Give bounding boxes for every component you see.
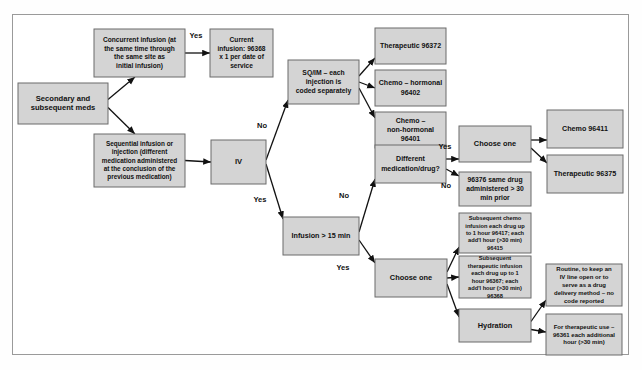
flow-node-therapeutic_96375: Therapeutic 96375 <box>547 155 623 193</box>
flowchart-canvas: Secondary andsubsequent medsConcurrent i… <box>0 0 642 370</box>
flow-edge-sqim-chemo-horm <box>359 82 375 88</box>
flow-node-iv: IV <box>211 140 266 184</box>
flow-edge-choosebot-subtherap <box>447 277 459 278</box>
flow-edge-start-concurrent <box>108 77 135 100</box>
flow-node-choose_one_bot: Choose one <box>375 259 447 297</box>
flow-node-infusion_15: Infusion > 15 min <box>283 217 359 255</box>
flow-edge-hydration-therap96361 <box>531 330 546 333</box>
flow-node-same_drug_96376: 96376 same drugadministered > 30min prio… <box>459 172 531 206</box>
flow-edge-sqim-therapeutic <box>359 58 375 76</box>
flow-edge-choosebot-subchemo <box>447 247 459 272</box>
flow-edge-iv-sqim <box>266 100 288 160</box>
flow-node-subseq_therap: Subsequenttherapeutic infusioneach drug … <box>459 255 531 298</box>
flow-node-sequential: Sequential infusion orinjection (differe… <box>94 134 185 187</box>
flow-node-chemo_96401: Chemo –non-hormonal96401 <box>375 112 446 148</box>
edge-label-iv-no: No <box>257 121 267 130</box>
flow-edge-choosebot-hydration <box>447 284 459 317</box>
flow-node-therap_96361: For therapeutic use –96361 each addition… <box>546 314 622 355</box>
flow-edge-iv-infusion <box>266 164 283 219</box>
node-label: Chemo 96411 <box>562 124 608 133</box>
flow-edge-infusion-choose <box>359 240 375 263</box>
node-label: Choose one <box>390 273 432 282</box>
flow-node-chemo_96402: Chemo – hormonal96402 <box>375 70 446 106</box>
flow-node-different_med: Differentmedication/drug? <box>375 145 446 183</box>
flow-node-therapeutic_96372: Therapeutic 96372 <box>375 28 446 64</box>
flow-node-current_infusion: Currentinfusion: 96368x 1 per date ofser… <box>210 29 273 77</box>
node-label: IV <box>235 157 243 166</box>
edge-label-different-yes: Yes <box>439 142 452 151</box>
node-label: Therapeutic 96372 <box>380 42 441 50</box>
node-label: Sequential infusion orinjection (differe… <box>102 140 177 181</box>
edge-label-different-no: No <box>441 181 451 190</box>
flow-node-subseq_chemo: Subsequent chemoinfusion each drug upto … <box>459 213 531 253</box>
flow-node-routine_iv: Routine, to keep anIV line open or toser… <box>546 264 622 306</box>
node-label: Hydration <box>478 320 513 329</box>
flow-edge-start-sequential <box>108 108 135 135</box>
flow-node-hydration: Hydration <box>459 309 531 342</box>
node-label: Secondary andsubsequent meds <box>31 94 96 113</box>
edge-label-infusion-no: No <box>339 191 349 200</box>
edge-label-iv-yes: Yes <box>254 195 267 204</box>
edge-label-concurrent-yes: Yes <box>190 31 203 40</box>
flow-edge-hydration-routine <box>531 300 546 322</box>
edge-label-infusion-yes: Yes <box>337 263 350 272</box>
flowchart-page: Secondary andsubsequent medsConcurrent i… <box>0 0 642 370</box>
flow-edge-infusion-different <box>359 179 375 232</box>
flow-node-sqim: SQ/IM – eachinjection iscoded separately <box>288 60 359 104</box>
flow-edge-chooseone-therap96375 <box>531 148 547 163</box>
flowchart-nodes: Secondary andsubsequent medsConcurrent i… <box>18 28 623 355</box>
flow-node-chemo_96411: Chemo 96411 <box>547 110 623 148</box>
flow-edge-different-samedrug <box>446 169 459 176</box>
flow-edge-sequential-iv <box>185 161 211 163</box>
node-label: Choose one <box>474 139 516 148</box>
flow-node-concurrent: Concurrent infusion (atthe same time thr… <box>94 29 185 77</box>
flow-edge-sqim-chemo-nonhorm <box>359 88 375 118</box>
node-label: Therapeutic 96375 <box>554 169 617 178</box>
flow-node-choose_one_top: Choose one <box>459 126 531 162</box>
node-label: Infusion > 15 min <box>292 231 351 240</box>
flow-node-start: Secondary andsubsequent meds <box>18 83 108 124</box>
